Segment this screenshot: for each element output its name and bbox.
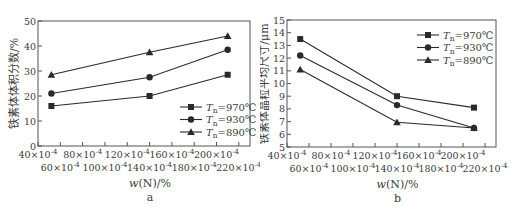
x-tick-label: 200×10-4 <box>194 148 240 160</box>
legend-item-label: Tn=970℃ <box>206 102 256 116</box>
data-point-triangle-marker <box>224 32 232 39</box>
data-point-square-marker <box>297 36 303 42</box>
y-tick-label: 14 <box>273 27 285 38</box>
y-tick-label: 15 <box>273 15 285 26</box>
data-point-circle-marker <box>394 102 400 108</box>
data-point-circle-marker <box>297 52 303 58</box>
data-point-circle-marker <box>224 47 230 53</box>
y-tick-label: 13 <box>273 40 285 51</box>
x-tick-label: 100×10-4 <box>330 162 376 174</box>
data-point-square-marker <box>394 93 400 99</box>
x-tick-label: 40×10-4 <box>268 149 308 161</box>
legend-item-label: Tn=970℃ <box>443 30 493 44</box>
y-axis-label: 铁素体晶粒平均尺寸/μm <box>260 23 271 144</box>
y-tick-label: 10 <box>24 116 36 127</box>
legend: Tn=970℃Tn=930℃Tn=890℃ <box>180 102 256 141</box>
panel-label: a <box>147 191 154 204</box>
x-axis-label: w(N)/% <box>377 178 419 191</box>
y-tick-label: 30 <box>24 66 36 77</box>
x-tick-label: 160×10-4 <box>149 148 195 160</box>
x-tick-label: 180×10-4 <box>172 161 218 173</box>
chart-b-panel: 5678910111213141540×10-460×10-480×10-410… <box>260 0 520 209</box>
x-tick-label: 160×10-4 <box>396 149 442 161</box>
x-tick-label: 220×10-4 <box>216 161 260 173</box>
chart-a-panel: 0102030405040×10-460×10-480×10-4100×10-4… <box>0 0 260 209</box>
x-tick-label: 40×10-4 <box>19 148 59 160</box>
chart-a: 0102030405040×10-460×10-480×10-4100×10-4… <box>0 0 260 209</box>
y-tick-label: 10 <box>273 78 285 89</box>
data-point-triangle-marker <box>296 66 304 73</box>
data-point-square-marker <box>147 93 153 99</box>
legend-item-label: Tn=890℃ <box>443 55 493 69</box>
legend-circle-marker <box>425 44 431 50</box>
y-tick-label: 6 <box>279 129 285 140</box>
series-square <box>48 72 230 109</box>
y-tick-label: 40 <box>24 41 36 52</box>
legend: Tn=970℃Tn=930℃Tn=890℃ <box>417 30 493 69</box>
data-point-square-marker <box>471 105 477 111</box>
x-axis-label: w(N)/% <box>129 177 171 190</box>
y-tick-label: 7 <box>279 116 285 127</box>
x-tick-label: 180×10-4 <box>418 162 464 174</box>
x-tick-label: 80×10-4 <box>312 149 352 161</box>
y-tick-label: 12 <box>273 53 285 64</box>
data-point-circle-marker <box>146 74 152 80</box>
series-triangle <box>48 32 232 78</box>
chart-b: 5678910111213141540×10-460×10-480×10-410… <box>260 0 520 209</box>
x-tick-label: 80×10-4 <box>63 148 103 160</box>
x-tick-label: 60×10-4 <box>41 161 81 173</box>
panel-label: b <box>394 192 401 205</box>
legend-circle-marker <box>188 116 194 122</box>
legend-item-label: Tn=930℃ <box>443 42 493 56</box>
y-tick-label: 50 <box>24 16 36 27</box>
legend-square-marker <box>188 104 194 110</box>
x-tick-label: 100×10-4 <box>82 161 128 173</box>
data-point-triangle-marker <box>393 118 401 125</box>
data-point-square-marker <box>225 72 231 78</box>
y-tick-label: 8 <box>279 103 285 114</box>
x-tick-label: 140×10-4 <box>127 161 173 173</box>
legend-item-label: Tn=930℃ <box>206 114 256 128</box>
y-axis-label: 铁素体体积分数/% <box>7 38 21 129</box>
y-tick-label: 9 <box>279 91 285 102</box>
x-tick-label: 200×10-4 <box>440 149 486 161</box>
y-tick-label: 20 <box>24 91 36 102</box>
legend-item-label: Tn=890℃ <box>206 127 256 141</box>
x-tick-label: 60×10-4 <box>290 162 330 174</box>
data-point-circle-marker <box>48 90 54 96</box>
data-point-square-marker <box>48 103 54 109</box>
x-tick-label: 140×10-4 <box>374 162 420 174</box>
legend-square-marker <box>425 32 431 38</box>
x-tick-label: 220×10-4 <box>462 162 508 174</box>
x-tick-label: 120×10-4 <box>352 149 398 161</box>
y-tick-label: 11 <box>273 65 285 76</box>
x-tick-label: 120×10-4 <box>105 148 151 160</box>
